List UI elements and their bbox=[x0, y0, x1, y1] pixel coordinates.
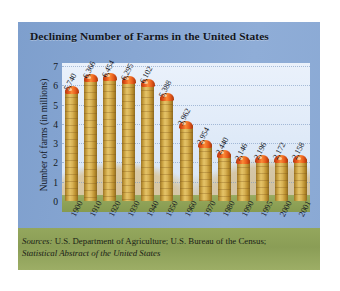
bar[interactable] bbox=[138, 83, 157, 201]
bar[interactable] bbox=[291, 159, 310, 201]
y-axis-tick: 5 bbox=[44, 101, 58, 111]
silo-body-icon bbox=[237, 160, 250, 201]
y-axis-tick: 2 bbox=[44, 159, 58, 169]
y-axis-tick: 1 bbox=[44, 178, 58, 188]
bar[interactable] bbox=[177, 125, 196, 201]
silo-body-icon bbox=[103, 77, 116, 201]
silo-body-icon bbox=[160, 97, 173, 201]
bar[interactable] bbox=[62, 90, 81, 201]
silo-body-icon bbox=[65, 90, 78, 201]
chart-title: Declining Number of Farms in the United … bbox=[30, 30, 310, 42]
source-line-2: Statistical Abstract of the United State… bbox=[22, 248, 160, 258]
bar[interactable] bbox=[196, 144, 215, 201]
bar[interactable] bbox=[272, 159, 291, 201]
silo-body-icon bbox=[256, 159, 269, 201]
figure-plate: Declining Number of Farms in the United … bbox=[18, 22, 320, 270]
source-note: Sources: U.S. Department of Agriculture;… bbox=[22, 236, 316, 260]
y-axis-tick: 0 bbox=[44, 197, 58, 207]
silo-body-icon bbox=[141, 83, 154, 201]
bar[interactable] bbox=[157, 97, 176, 201]
bar[interactable] bbox=[253, 159, 272, 201]
silo-body-icon bbox=[199, 144, 212, 201]
y-axis-tick: 7 bbox=[44, 62, 58, 72]
y-axis-tick-labels: 01234567 bbox=[44, 64, 58, 214]
source-band: Sources: U.S. Department of Agriculture;… bbox=[18, 228, 320, 270]
silo-body-icon bbox=[275, 159, 288, 201]
bar[interactable] bbox=[81, 78, 100, 201]
bar-series: 5,7406,3666,4546,2956,1025,3883,9622,954… bbox=[62, 63, 310, 212]
y-axis-tick: 4 bbox=[44, 120, 58, 130]
silo-body-icon bbox=[294, 159, 307, 201]
bar[interactable] bbox=[119, 80, 138, 201]
bar[interactable] bbox=[100, 77, 119, 201]
silo-body-icon bbox=[84, 78, 97, 201]
source-label: Sources: bbox=[22, 236, 52, 246]
silo-body-icon bbox=[180, 125, 193, 201]
y-axis-tick: 6 bbox=[44, 81, 58, 91]
y-axis-tick: 3 bbox=[44, 139, 58, 149]
source-line-1: U.S. Department of Agriculture; U.S. Bur… bbox=[52, 236, 266, 246]
silo-body-icon bbox=[218, 154, 231, 201]
bar[interactable] bbox=[215, 154, 234, 201]
bar[interactable] bbox=[234, 160, 253, 201]
silo-body-icon bbox=[122, 80, 135, 201]
